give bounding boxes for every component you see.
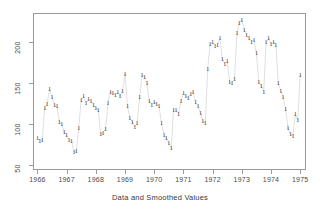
x-tick: [300, 170, 301, 174]
y-tick: [29, 42, 33, 43]
y-tick-label: 200: [14, 42, 21, 54]
x-tick-label: 1974: [263, 176, 279, 183]
x-tick-label: 1968: [88, 176, 104, 183]
x-tick: [213, 170, 214, 174]
y-tick-label: 50: [14, 165, 21, 173]
y-tick: [29, 165, 33, 166]
x-tick: [154, 170, 155, 174]
chart-caption: Data and Smoothed Values: [0, 193, 320, 202]
x-tick: [125, 170, 126, 174]
x-tick: [37, 170, 38, 174]
y-tick: [29, 124, 33, 125]
x-tick-label: 1972: [204, 176, 220, 183]
x-tick-label: 1966: [29, 176, 45, 183]
x-tick: [67, 170, 68, 174]
x-tick-label: 1973: [234, 176, 250, 183]
plot-frame: [33, 13, 306, 170]
x-tick-label: 1975: [292, 176, 308, 183]
x-tick-label: 1969: [117, 176, 133, 183]
chart-figure: 50100150200 1966196719681969197019711972…: [0, 0, 320, 212]
x-tick: [242, 170, 243, 174]
x-tick: [271, 170, 272, 174]
y-tick-label: 150: [14, 83, 21, 95]
x-tick: [183, 170, 184, 174]
x-tick-label: 1970: [146, 176, 162, 183]
x-tick: [96, 170, 97, 174]
x-tick-label: 1967: [58, 176, 74, 183]
y-tick-label: 100: [14, 124, 21, 136]
x-tick-label: 1971: [175, 176, 191, 183]
y-tick: [29, 83, 33, 84]
